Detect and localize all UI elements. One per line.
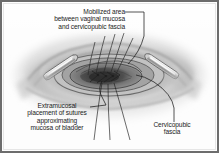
- extramucosal-line-3: approximating: [13, 117, 101, 124]
- cervicopubic-line-2: fascia: [139, 128, 205, 135]
- extramucosal-line-1: Extramucosal: [13, 102, 101, 109]
- mobilized-area-line-2: between vaginal mucosa: [29, 15, 125, 22]
- cervicopubic-fascia-label: Cervicopubic fascia: [139, 121, 205, 136]
- cervicopubic-line-1: Cervicopubic: [139, 121, 205, 128]
- extramucosal-line-2: placement of sutures: [13, 109, 101, 116]
- mobilized-area-line-3: and cervicopubic fascia: [29, 23, 125, 30]
- extramucosal-sutures-label: Extramucosal placement of sutures approx…: [13, 102, 101, 132]
- medical-illustration-figure: Mobilized area between vaginal mucosa an…: [0, 0, 219, 153]
- extramucosal-line-4: mucosa of bladder: [13, 124, 101, 131]
- mobilized-area-label: Mobilized area between vaginal mucosa an…: [29, 8, 125, 30]
- mobilized-area-line-1: Mobilized area: [29, 8, 125, 15]
